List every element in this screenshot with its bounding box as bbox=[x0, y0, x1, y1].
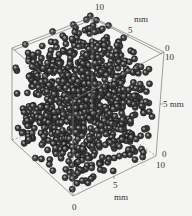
bottom-axis-tick-5: 5 bbox=[113, 181, 118, 190]
vertical-axis-tick-5-unit: 5 mm bbox=[163, 100, 184, 109]
vertical-axis-tick-10: 10 bbox=[165, 53, 174, 62]
vertical-axis-tick-0: 0 bbox=[162, 150, 167, 159]
top-axis-tick-10: 10 bbox=[95, 3, 104, 12]
particle-packing-figure: 10 mm 5 0 10 5 mm 0 10 5 mm 0 bbox=[0, 0, 192, 216]
bottom-axis-unit-label: mm bbox=[114, 193, 128, 202]
bottom-axis-tick-10: 10 bbox=[156, 161, 165, 170]
bottom-axis-tick-0: 0 bbox=[72, 203, 77, 212]
top-axis-unit-label: mm bbox=[134, 15, 148, 24]
top-axis-tick-5: 5 bbox=[128, 26, 133, 35]
